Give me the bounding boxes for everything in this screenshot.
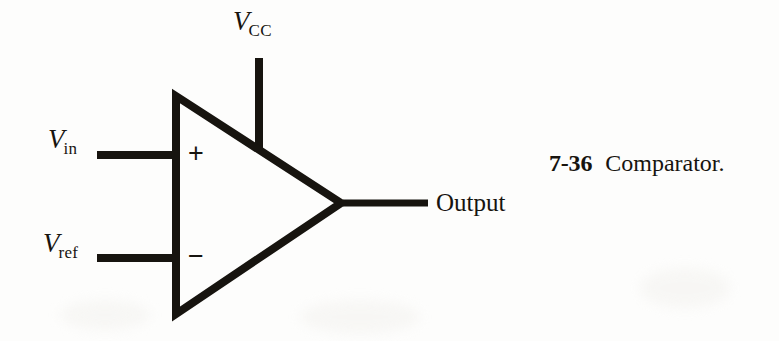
noninverting-input-sign: + — [188, 140, 204, 167]
label-output: Output — [436, 190, 505, 215]
figure-comparator: VCC Vin Vref Output + − 7-36Comparator. — [0, 0, 779, 341]
figure-caption: 7-36Comparator. — [549, 150, 725, 177]
label-vin-symbol: V — [48, 124, 65, 154]
label-vcc: VCC — [233, 8, 273, 35]
label-vin-subscript: in — [64, 139, 78, 158]
label-vref-symbol: V — [43, 228, 60, 258]
label-vref: Vref — [43, 230, 79, 257]
figure-caption-number: 7-36 — [549, 150, 592, 176]
label-vcc-subscript: CC — [249, 21, 272, 40]
label-vin: Vin — [48, 126, 78, 153]
label-vref-subscript: ref — [59, 243, 78, 262]
label-vcc-symbol: V — [233, 6, 250, 36]
inverting-input-sign: − — [188, 243, 204, 270]
figure-caption-text: Comparator. — [605, 150, 724, 176]
